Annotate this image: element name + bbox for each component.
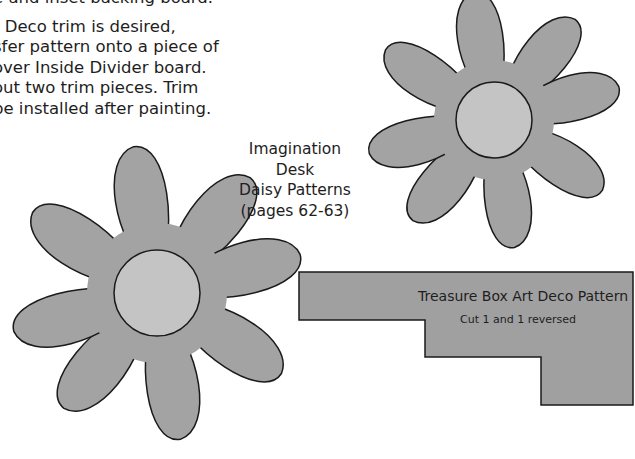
daisy-small <box>364 0 624 250</box>
daisy-center <box>456 82 532 158</box>
caption-line: Daisy Patterns <box>232 180 358 201</box>
daisy-caption: Imagination Desk Daisy Patterns (pages 6… <box>232 139 358 221</box>
deco-pattern-subtitle: Cut 1 and 1 reversed <box>460 313 576 326</box>
caption-line: Imagination Desk <box>232 139 358 180</box>
caption-line: (pages 62-63) <box>232 201 358 222</box>
pattern-artwork <box>0 0 635 459</box>
daisy-center <box>114 250 200 336</box>
deco-pattern-title: Treasure Box Art Deco Pattern <box>418 288 628 304</box>
